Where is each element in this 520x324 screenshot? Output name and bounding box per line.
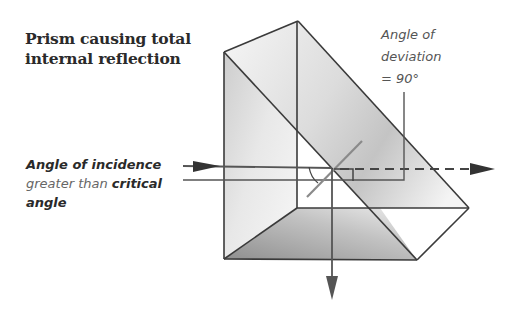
prism-diagram xyxy=(0,0,520,324)
incident-arrowhead-icon xyxy=(193,161,220,172)
reflected-arrowhead-icon xyxy=(326,276,338,300)
dashed-arrowhead-icon xyxy=(470,163,495,175)
